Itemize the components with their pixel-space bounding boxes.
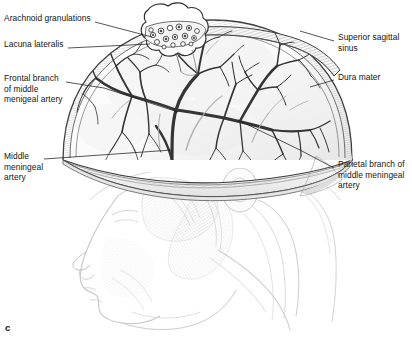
leader-superior-sagittal-sinus — [300, 31, 334, 41]
label-superior-sagittal-sinus: Superior sagittal sinus — [338, 32, 399, 53]
figure-caption-letter: c — [5, 322, 10, 333]
label-middle-meningeal-artery: Middle meningeal artery — [4, 151, 43, 183]
label-parietal-branch-middle-meningeal-artery: Parietal branch of middle meningeal arte… — [338, 159, 405, 191]
label-lacuna-lateralis: Lacuna lateralis — [4, 39, 63, 50]
calvaria-dome — [63, 3, 352, 201]
label-arachnoid-granulations: Arachnoid granulations — [4, 13, 91, 24]
label-dura-mater: Dura mater — [338, 72, 380, 83]
label-frontal-branch-middle-meningeal-artery: Frontal branch of middle menigeal artery — [4, 73, 62, 105]
